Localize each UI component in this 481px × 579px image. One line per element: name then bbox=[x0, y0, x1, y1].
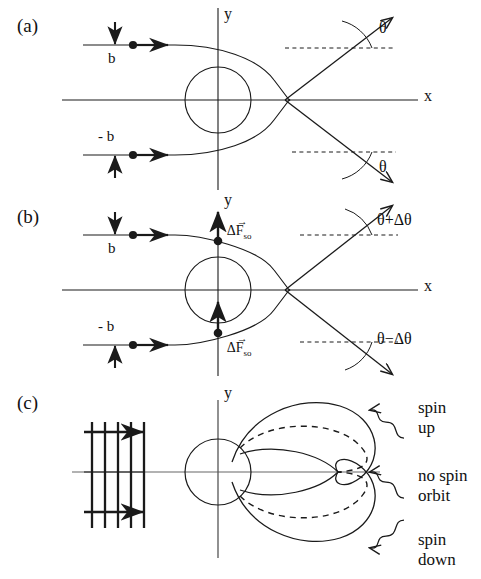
panel-a-tag: (a) bbox=[17, 16, 38, 36]
panel-b-reference-lines bbox=[300, 235, 398, 342]
panel-c-annotation-spin-down: spin down bbox=[418, 530, 456, 569]
panel-c-callout-arrows bbox=[370, 410, 404, 548]
panel-c-tag: (c) bbox=[17, 393, 38, 413]
panel-b-x-axis-label: x bbox=[424, 278, 432, 295]
panel-a-graphics bbox=[0, 0, 481, 195]
force-label-top-sub: so bbox=[244, 231, 252, 241]
panel-c-annotation-spin-up: spin up bbox=[418, 398, 446, 437]
panel-b-impact-parameter-bottom: - b bbox=[98, 319, 114, 335]
panel-c-incoming-wavefronts bbox=[84, 422, 144, 528]
panel-c-annotation-no-spin-orbit: no spin orbit bbox=[418, 466, 468, 505]
panel-b-force-label-top: ΔF→so bbox=[224, 221, 258, 241]
panel-b-scattering-angle-bottom: θ−Δθ bbox=[377, 331, 412, 348]
vector-arrow-top-icon: → bbox=[237, 216, 248, 228]
panel-a-impact-parameter-bottom: - b bbox=[98, 129, 114, 145]
panel-a-scattering-angle-bottom: θ bbox=[379, 159, 387, 176]
panel-b-y-axis-label: y bbox=[224, 192, 232, 209]
vector-arrow-bottom-icon: → bbox=[237, 333, 248, 345]
force-label-bottom-sub: so bbox=[244, 348, 252, 358]
panel-c-y-axis-label: y bbox=[224, 385, 232, 402]
panel-b-tag: (b) bbox=[17, 207, 39, 227]
panel-c-graphics bbox=[0, 380, 481, 579]
panel-a-y-axis-label: y bbox=[224, 6, 232, 23]
panel-b-impact-parameter-top: b bbox=[108, 241, 116, 257]
panel-b-scattering-angle-top: θ+Δθ bbox=[377, 212, 412, 229]
scattering-figure: (a) x y b - b θ θ bbox=[0, 0, 481, 579]
panel-a-impact-parameter-top: b bbox=[108, 51, 116, 67]
panel-a-scattering-angle-top: θ bbox=[379, 20, 387, 37]
panel-b-force-label-bottom: ΔF→so bbox=[224, 338, 258, 358]
panel-a-x-axis-label: x bbox=[424, 88, 432, 105]
